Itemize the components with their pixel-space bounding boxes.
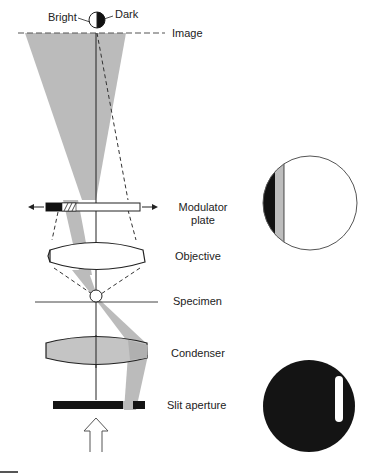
label-slit-aperture: Slit aperture — [167, 399, 226, 412]
dashed-ray-obj-spec-right — [101, 268, 140, 294]
dashed-ray-right — [128, 210, 136, 240]
label-objective: Objective — [175, 250, 221, 263]
modulator-inset — [263, 156, 357, 250]
arrow-right-icon — [152, 204, 158, 210]
modulator-dark-zone — [46, 203, 62, 211]
label-bright: Bright — [48, 11, 77, 24]
label-modulator-plate: Modulator plate — [172, 201, 234, 227]
dashed-ray-left — [52, 212, 58, 240]
image-beam-cone — [25, 33, 126, 200]
dark-leader — [104, 16, 113, 19]
specimen — [90, 290, 102, 302]
slit-opening — [123, 401, 133, 409]
light-source-arrow-icon — [84, 418, 108, 452]
slit-aperture-inset — [263, 360, 355, 452]
objective-lens — [50, 243, 145, 270]
label-modulator-line2: plate — [172, 214, 234, 227]
label-condenser: Condenser — [171, 347, 225, 360]
arrow-left-icon — [28, 204, 34, 210]
label-specimen: Specimen — [173, 295, 222, 308]
label-modulator-line1: Modulator — [172, 201, 234, 214]
label-image: Image — [172, 27, 203, 40]
bright-leader — [78, 18, 90, 22]
dark-half-icon — [97, 12, 105, 28]
label-dark: Dark — [115, 8, 138, 21]
